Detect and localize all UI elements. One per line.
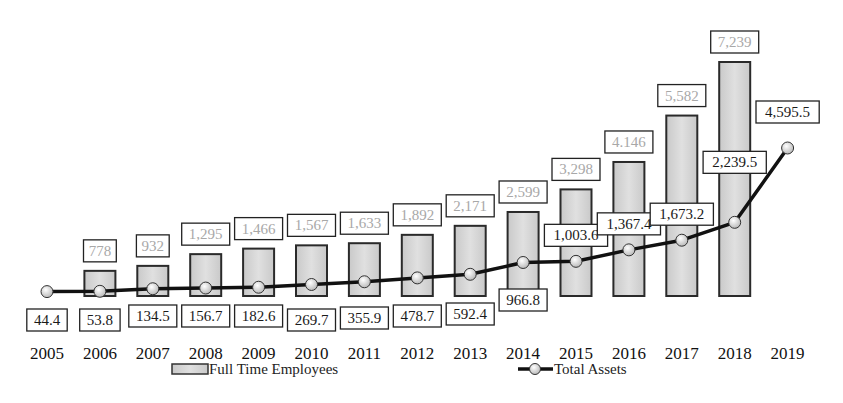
legend: Full Time Employees Total Assets bbox=[172, 361, 627, 377]
svg-text:1,633: 1,633 bbox=[348, 215, 382, 231]
x-tick-2005: 2005 bbox=[30, 344, 64, 363]
employee-bars bbox=[84, 62, 750, 296]
employee-label-2013: 2,171 bbox=[446, 195, 494, 217]
svg-text:1,567: 1,567 bbox=[295, 217, 329, 233]
x-tick-2011: 2011 bbox=[348, 344, 381, 363]
asset-marker-2014 bbox=[517, 256, 529, 268]
legend-assets: Total Assets bbox=[518, 361, 627, 377]
svg-text:778: 778 bbox=[89, 243, 112, 259]
svg-text:2,239.5: 2,239.5 bbox=[712, 154, 757, 170]
asset-marker-2006 bbox=[94, 285, 106, 297]
svg-text:269.7: 269.7 bbox=[295, 312, 329, 328]
employee-label-2009: 1,466 bbox=[235, 218, 283, 240]
legend-employees: Full Time Employees bbox=[172, 361, 338, 377]
asset-label-2006: 53.8 bbox=[80, 309, 120, 331]
svg-text:3,298: 3,298 bbox=[559, 161, 593, 177]
asset-marker-2009 bbox=[253, 281, 265, 293]
asset-marker-2010 bbox=[306, 278, 318, 290]
svg-text:5,582: 5,582 bbox=[665, 88, 699, 104]
x-tick-2012: 2012 bbox=[400, 344, 434, 363]
svg-text:182.6: 182.6 bbox=[242, 308, 276, 324]
x-tick-2014: 2014 bbox=[506, 344, 541, 363]
bar-2012 bbox=[402, 235, 433, 296]
asset-marker-2018 bbox=[729, 216, 741, 228]
x-tick-2019: 2019 bbox=[771, 344, 805, 363]
employee-label-2007: 932 bbox=[136, 235, 169, 257]
x-tick-2013: 2013 bbox=[453, 344, 487, 363]
asset-marker-2013 bbox=[464, 268, 476, 280]
employee-label-2016: 4.146 bbox=[605, 131, 653, 153]
svg-text:53.8: 53.8 bbox=[87, 312, 113, 328]
asset-label-2010: 269.7 bbox=[288, 309, 336, 331]
bar-2013 bbox=[455, 226, 486, 296]
svg-text:1,892: 1,892 bbox=[400, 207, 434, 223]
asset-label-2005: 44.4 bbox=[27, 309, 67, 331]
employee-label-2017: 5,582 bbox=[658, 85, 706, 107]
svg-text:1,466: 1,466 bbox=[242, 221, 276, 237]
svg-text:1,367.4: 1,367.4 bbox=[606, 216, 652, 232]
combo-chart: 7789321,2951,4661,5671,6331,8922,1712,59… bbox=[0, 0, 843, 403]
svg-text:2,599: 2,599 bbox=[506, 184, 540, 200]
asset-label-2014: 966.8 bbox=[499, 289, 547, 311]
svg-text:4,595.5: 4,595.5 bbox=[765, 104, 810, 120]
svg-text:134.5: 134.5 bbox=[136, 308, 170, 324]
svg-text:592.4: 592.4 bbox=[453, 306, 487, 322]
employee-label-2010: 1,567 bbox=[288, 214, 336, 236]
x-tick-2017: 2017 bbox=[665, 344, 700, 363]
svg-text:932: 932 bbox=[142, 238, 165, 254]
employee-label-2015: 3,298 bbox=[552, 158, 600, 180]
employee-label-2012: 1,892 bbox=[393, 204, 441, 226]
asset-label-2007: 134.5 bbox=[129, 305, 177, 327]
asset-marker-2005 bbox=[41, 286, 53, 298]
asset-marker-2008 bbox=[200, 282, 212, 294]
employee-label-2018: 7,239 bbox=[711, 31, 759, 53]
svg-text:478.7: 478.7 bbox=[400, 308, 434, 324]
employee-label-2008: 1,295 bbox=[182, 223, 230, 245]
svg-text:2,171: 2,171 bbox=[453, 198, 487, 214]
x-tick-2006: 2006 bbox=[83, 344, 117, 363]
asset-marker-2012 bbox=[411, 272, 423, 284]
asset-marker-2019 bbox=[782, 142, 794, 154]
svg-text:966.8: 966.8 bbox=[506, 292, 540, 308]
asset-label-2019: 4,595.5 bbox=[756, 101, 819, 123]
employee-label-2011: 1,633 bbox=[340, 212, 388, 234]
asset-marker-2017 bbox=[676, 234, 688, 246]
asset-marker-2007 bbox=[147, 283, 159, 295]
svg-text:7,239: 7,239 bbox=[718, 34, 752, 50]
asset-label-2009: 182.6 bbox=[235, 305, 283, 327]
asset-label-2011: 355.9 bbox=[340, 307, 388, 329]
asset-marker-2016 bbox=[623, 244, 635, 256]
asset-marker-2011 bbox=[358, 276, 370, 288]
asset-label-2008: 156.7 bbox=[182, 305, 230, 327]
legend-employees-label: Full Time Employees bbox=[209, 361, 338, 377]
asset-marker-2015 bbox=[570, 255, 582, 267]
x-axis-ticks: 2005200620072008200920102011201220132014… bbox=[30, 344, 805, 363]
svg-text:1,295: 1,295 bbox=[189, 226, 223, 242]
asset-label-2013: 592.4 bbox=[446, 303, 494, 325]
svg-text:1,673.2: 1,673.2 bbox=[659, 206, 704, 222]
asset-label-2012: 478.7 bbox=[393, 305, 441, 327]
employee-label-2014: 2,599 bbox=[499, 181, 547, 203]
asset-label-2017: 1,673.2 bbox=[650, 203, 713, 225]
asset-label-2018: 2,239.5 bbox=[703, 151, 766, 173]
bar-2018 bbox=[719, 62, 750, 296]
employee-label-2006: 778 bbox=[84, 240, 117, 262]
legend-assets-label: Total Assets bbox=[554, 361, 627, 377]
svg-text:44.4: 44.4 bbox=[34, 312, 61, 328]
x-tick-2018: 2018 bbox=[718, 344, 752, 363]
legend-marker-icon bbox=[530, 364, 541, 375]
svg-text:4.146: 4.146 bbox=[612, 134, 646, 150]
bar-2014 bbox=[508, 212, 539, 296]
svg-text:1,003.6: 1,003.6 bbox=[554, 227, 600, 243]
x-tick-2007: 2007 bbox=[136, 344, 171, 363]
svg-text:355.9: 355.9 bbox=[348, 310, 382, 326]
legend-bar-swatch-icon bbox=[172, 364, 208, 374]
svg-text:156.7: 156.7 bbox=[189, 308, 223, 324]
